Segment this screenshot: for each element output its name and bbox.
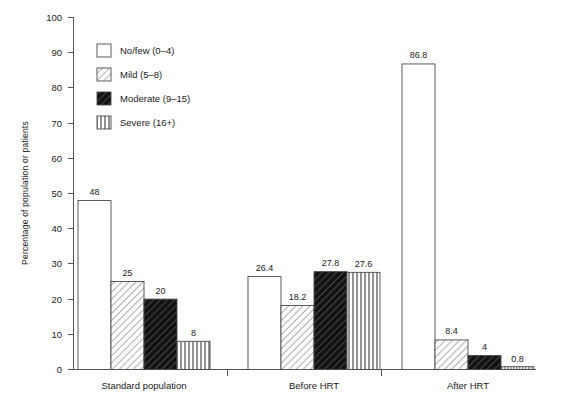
- y-axis-ticks: [68, 18, 74, 370]
- legend-swatch-vertical-lines: [97, 116, 111, 129]
- bar-mild[interactable]: [111, 282, 144, 370]
- bar-value-label: 27.6: [355, 259, 373, 269]
- y-tick-label: 90: [51, 47, 62, 58]
- bar-group-before-hrt: 26.4 18.2 27.8 27.6 Before HRT: [248, 258, 380, 391]
- bar-value-label: 4: [482, 342, 487, 352]
- legend-item-mild[interactable]: Mild (5–8): [97, 68, 162, 81]
- bar-value-label: 8.4: [445, 326, 458, 336]
- legend-label: Moderate (9–15): [120, 93, 190, 104]
- bar-no-few[interactable]: [402, 64, 435, 370]
- bar-moderate[interactable]: [468, 355, 501, 369]
- bar-value-label: 86.8: [410, 50, 428, 60]
- bar-value-label: 48: [89, 187, 99, 197]
- bar-moderate[interactable]: [144, 299, 177, 369]
- y-tick-label: 20: [51, 294, 62, 305]
- legend-item-severe[interactable]: Severe (16+): [97, 116, 175, 129]
- bar-severe[interactable]: [177, 341, 210, 369]
- y-tick-label: 30: [51, 258, 62, 269]
- bar-group-after-hrt: 86.8 8.4 4 0.8 After HRT: [402, 50, 534, 391]
- bar-value-label: 27.8: [322, 258, 340, 268]
- chart-canvas: 100 90 80 70 60 50 40 30 20 10 0 Percent…: [0, 0, 571, 400]
- bar-mild[interactable]: [435, 340, 468, 370]
- legend: No/few (0–4) Mild (5–8) Moderate (9–15) …: [97, 44, 190, 129]
- bar-mild[interactable]: [281, 305, 314, 369]
- legend-item-no-few[interactable]: No/few (0–4): [97, 44, 174, 57]
- legend-label: No/few (0–4): [120, 45, 174, 56]
- bar-value-label: 20: [155, 286, 165, 296]
- legend-label: Severe (16+): [120, 117, 175, 128]
- y-axis-tick-labels: 100 90 80 70 60 50 40 30 20 10 0: [46, 12, 62, 375]
- legend-item-moderate[interactable]: Moderate (9–15): [97, 92, 190, 105]
- bar-no-few[interactable]: [248, 277, 281, 370]
- y-tick-label: 40: [51, 223, 62, 234]
- y-tick-label: 0: [57, 364, 62, 375]
- y-tick-label: 60: [51, 153, 62, 164]
- bar-severe[interactable]: [501, 367, 534, 370]
- y-axis-title: Percentage of population or patients: [20, 121, 30, 265]
- bar-value-label: 0.8: [511, 354, 524, 364]
- legend-swatch-dark-diagonal-hatch: [97, 92, 111, 105]
- x-category-label: Before HRT: [289, 380, 339, 391]
- legend-swatch-solid-white: [97, 44, 111, 57]
- bar-value-label: 8: [191, 328, 196, 338]
- y-tick-label: 10: [51, 329, 62, 340]
- legend-label: Mild (5–8): [120, 69, 162, 80]
- bar-value-label: 18.2: [289, 292, 307, 302]
- bar-moderate[interactable]: [314, 272, 347, 370]
- bar-no-few[interactable]: [78, 201, 111, 370]
- bar-group-standard-population: 48 25 20 8 Standard population: [78, 187, 210, 391]
- x-axis-group-ticks: [228, 370, 382, 377]
- bar-severe[interactable]: [347, 272, 380, 369]
- bar-value-label: 25: [122, 268, 132, 278]
- y-tick-label: 70: [51, 118, 62, 129]
- x-category-label: Standard population: [101, 380, 186, 391]
- y-tick-label: 50: [51, 188, 62, 199]
- x-category-label: After HRT: [447, 380, 489, 391]
- bar-value-label: 26.4: [256, 263, 274, 273]
- y-tick-label: 80: [51, 82, 62, 93]
- legend-swatch-light-diagonal-hatch: [97, 68, 111, 81]
- y-tick-label: 100: [46, 12, 62, 23]
- bar-chart: 100 90 80 70 60 50 40 30 20 10 0 Percent…: [0, 0, 571, 400]
